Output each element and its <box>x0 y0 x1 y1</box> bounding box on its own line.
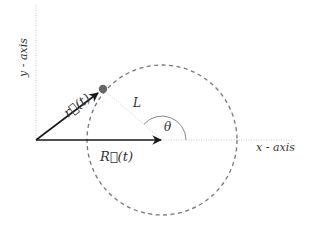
angle-label: θ <box>164 120 172 134</box>
R-vector-label: R⃗(t) <box>99 149 133 164</box>
r-vector-label: r⃗(t) <box>61 90 93 120</box>
vector-diagram: y - axis x - axis r⃗(t) R⃗(t) L θ <box>0 0 312 230</box>
point-mass <box>99 85 107 93</box>
x-axis-label: x - axis <box>256 141 295 154</box>
length-label: L <box>132 96 141 110</box>
y-axis-label: y - axis <box>17 38 30 78</box>
